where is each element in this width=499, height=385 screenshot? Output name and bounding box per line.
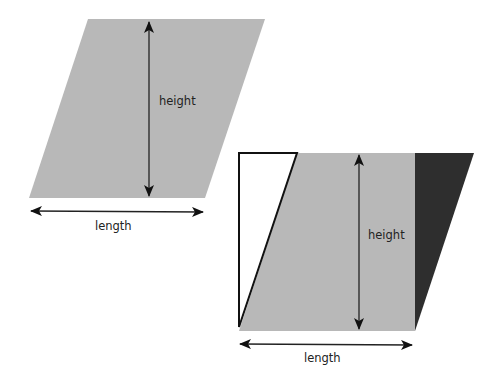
height-label-2: height [368, 228, 405, 242]
length-arrow-2 [240, 344, 412, 345]
parallelogram-shape [29, 19, 265, 198]
figure-rearranged: height length [239, 153, 474, 365]
height-label: height [159, 94, 196, 108]
length-label: length [95, 219, 132, 233]
diagram-canvas: height length height length [0, 0, 499, 385]
dark-moved-triangle [415, 153, 474, 331]
length-label-2: length [304, 351, 341, 365]
length-arrow [31, 211, 203, 212]
figure-parallelogram: height length [29, 19, 265, 233]
